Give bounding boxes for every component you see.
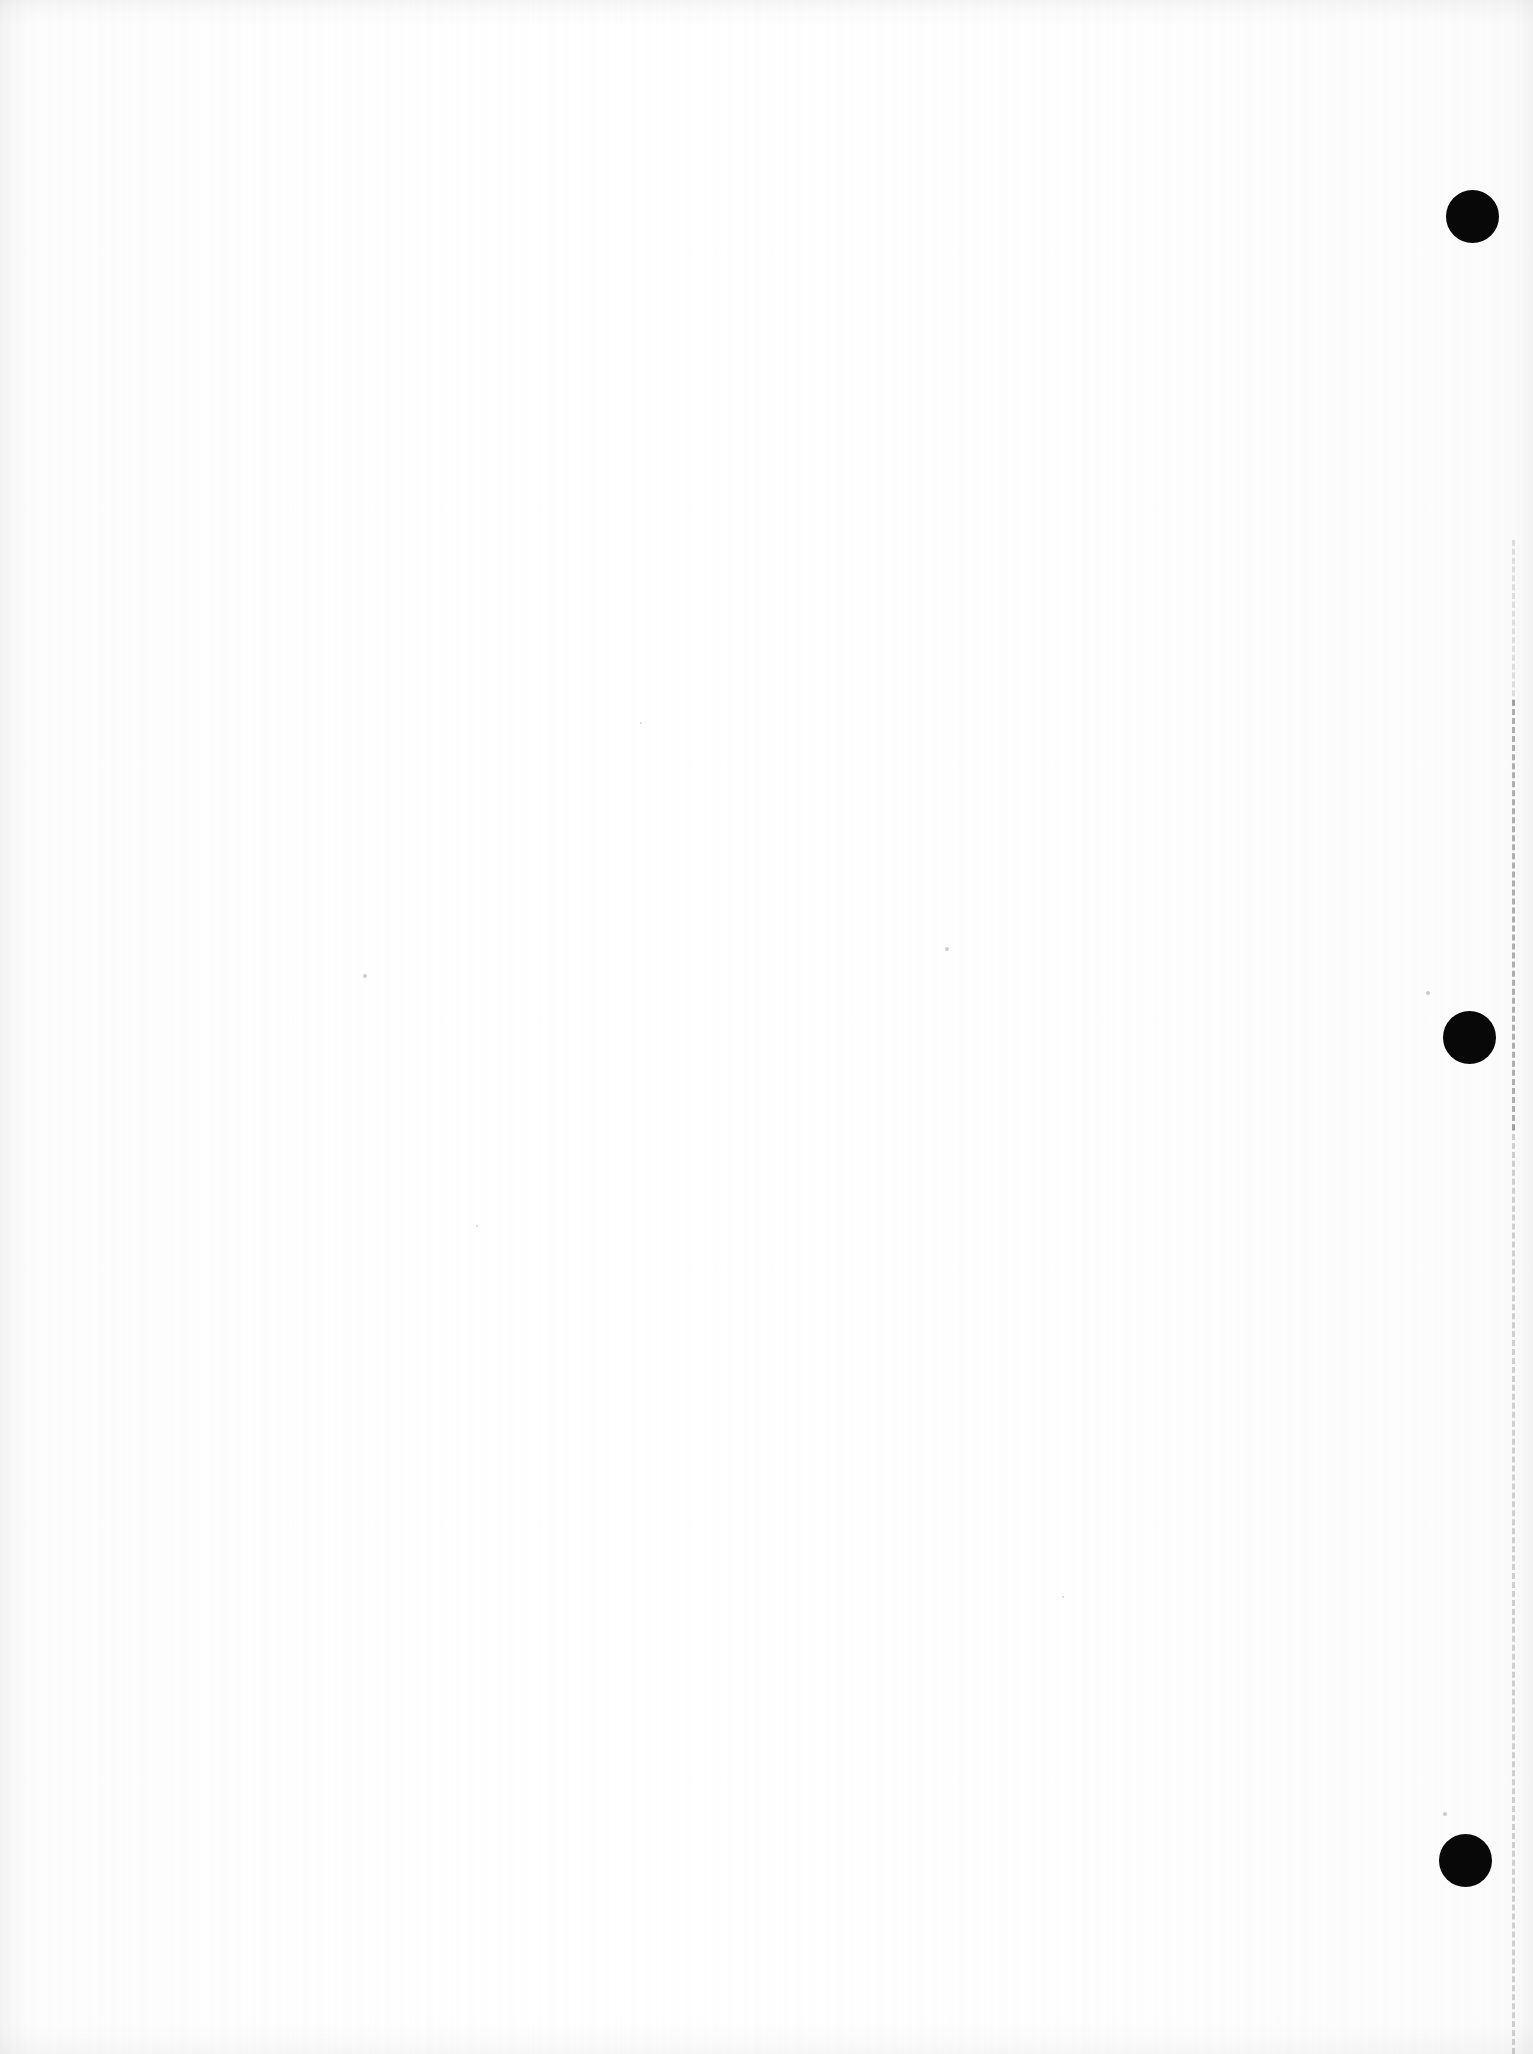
dashed-rule-segment-faint-upper — [1512, 540, 1515, 705]
scan-speck — [476, 1225, 478, 1227]
registration-dot-bottom — [1439, 1834, 1492, 1887]
scan-speck — [363, 974, 367, 978]
registration-dot-top — [1446, 190, 1499, 243]
registration-dot-middle — [1443, 1011, 1496, 1064]
scan-speck — [1443, 1812, 1447, 1816]
scanned-page — [0, 0, 1533, 2054]
scan-speck — [1062, 1596, 1064, 1598]
dashed-rule-segment-light-lower — [1512, 1125, 1515, 2054]
scan-speck — [945, 947, 949, 951]
dashed-rule-segment-dark-middle — [1512, 700, 1515, 1130]
scan-speck — [1426, 991, 1430, 995]
scan-speck — [640, 722, 642, 724]
paper-background — [0, 0, 1533, 2054]
